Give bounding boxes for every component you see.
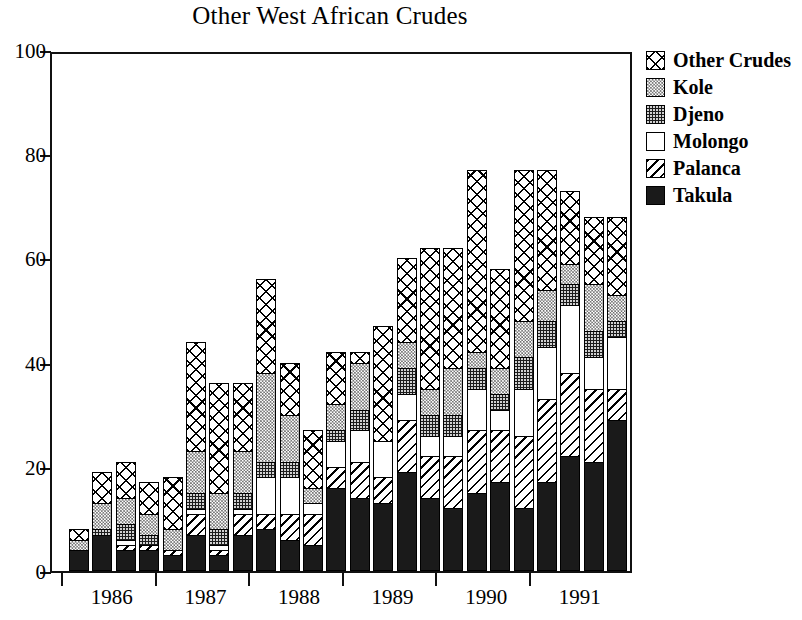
- bar-stack: [490, 269, 510, 571]
- bar-segment: [490, 269, 510, 368]
- legend-item[interactable]: Kole: [646, 74, 798, 101]
- y-axis-tick-label: 100: [0, 41, 46, 62]
- bar-segment: [350, 352, 370, 362]
- bar-segment: [373, 477, 393, 503]
- bar-segment: [256, 462, 276, 478]
- bar-segment: [233, 451, 253, 493]
- bar-segment: [373, 441, 393, 477]
- legend-item[interactable]: Molongo: [646, 128, 798, 155]
- bar-segment: [209, 550, 229, 555]
- legend-item-label: Kole: [673, 76, 713, 99]
- bar-segment: [443, 508, 463, 571]
- x-axis-tick: [155, 573, 157, 586]
- bar-segment: [514, 436, 534, 509]
- bar-segment: [537, 482, 557, 571]
- bar-segment: [397, 342, 417, 368]
- y-axis-tick-label: 0: [0, 562, 46, 583]
- legend-swatch-icon: [646, 51, 665, 70]
- bar-segment: [209, 383, 229, 492]
- bar-segment: [467, 389, 487, 431]
- bar-stack: [443, 248, 463, 571]
- bar-segment: [139, 535, 159, 545]
- legend-swatch-icon: [646, 78, 665, 97]
- bar-stack: [467, 170, 487, 571]
- bar-stack: [584, 217, 604, 571]
- bar-segment: [280, 514, 300, 540]
- x-axis-tick-label: 1986: [67, 586, 157, 609]
- bar-segment: [139, 482, 159, 513]
- bar-segment: [280, 477, 300, 513]
- bar-segment: [209, 555, 229, 571]
- y-axis-tick-label: 40: [0, 354, 46, 375]
- bar-stack: [420, 248, 440, 571]
- bar-segment: [584, 389, 604, 462]
- bar-segment: [186, 509, 206, 514]
- bar-stack: [607, 217, 627, 571]
- bar-segment: [443, 248, 463, 368]
- legend-item[interactable]: Djeno: [646, 101, 798, 128]
- bar-segment: [560, 284, 580, 305]
- bar-segment: [163, 555, 183, 571]
- bar-segment: [467, 368, 487, 389]
- bar-stack: [280, 363, 300, 571]
- bar-segment: [514, 357, 534, 388]
- bar-segment: [209, 529, 229, 545]
- bar-segment: [303, 488, 323, 504]
- bar-segment: [303, 430, 323, 487]
- bar-segment: [490, 430, 510, 482]
- bar-segment: [607, 217, 627, 295]
- x-axis-tick: [342, 573, 344, 586]
- bar-segment: [584, 331, 604, 357]
- legend-item[interactable]: Palanca: [646, 155, 798, 182]
- bar-segment: [256, 279, 276, 373]
- bar-stack: [186, 342, 206, 571]
- bar-stack: [209, 383, 229, 571]
- bar-segment: [350, 498, 370, 571]
- bar-segment: [326, 404, 346, 430]
- bar-segment: [256, 529, 276, 571]
- legend-item[interactable]: Takula: [646, 182, 798, 209]
- bar-segment: [350, 462, 370, 498]
- bar-segment: [420, 436, 440, 457]
- legend-item-label: Djeno: [673, 103, 724, 126]
- bar-segment: [280, 363, 300, 415]
- bar-segment: [420, 248, 440, 389]
- bar-segment: [116, 540, 136, 545]
- bar-segment: [537, 321, 557, 347]
- bar-segment: [490, 410, 510, 431]
- bar-segment: [92, 472, 112, 503]
- bar-segment: [326, 488, 346, 571]
- bar-segment: [560, 373, 580, 456]
- bar-segment: [467, 170, 487, 352]
- bar-segment: [584, 284, 604, 331]
- legend-item-label: Molongo: [673, 130, 749, 153]
- bar-segment: [607, 420, 627, 571]
- legend-swatch-icon: [646, 159, 665, 178]
- legend-swatch-icon: [646, 105, 665, 124]
- bar-segment: [256, 477, 276, 513]
- bar-segment: [607, 389, 627, 420]
- bar-segment: [139, 550, 159, 571]
- bar-segment: [443, 456, 463, 508]
- bar-segment: [397, 420, 417, 472]
- chart-title: Other West African Crudes: [0, 2, 660, 30]
- bar-segment: [186, 535, 206, 571]
- bar-segment: [514, 389, 534, 436]
- bar-segment: [326, 352, 346, 404]
- bar-segment: [560, 191, 580, 264]
- bar-segment: [467, 493, 487, 571]
- bar-segment: [560, 264, 580, 285]
- bar-segment: [186, 342, 206, 451]
- bar-segment: [560, 456, 580, 571]
- bar-segment: [420, 498, 440, 571]
- bar-segment: [116, 550, 136, 571]
- bar-segment: [186, 514, 206, 535]
- x-axis-tick: [248, 573, 250, 586]
- bar-segment: [209, 493, 229, 529]
- bar-segment: [537, 170, 557, 290]
- bar-segment: [397, 258, 417, 341]
- x-axis-tick-label: 1989: [348, 586, 438, 609]
- bar-segment: [607, 295, 627, 321]
- legend-item[interactable]: Other Crudes: [646, 47, 798, 74]
- bar-segment: [397, 472, 417, 571]
